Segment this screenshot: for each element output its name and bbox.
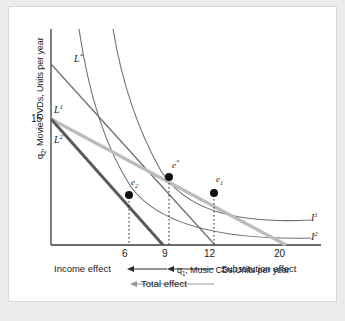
budget-line-lstar-path (51, 64, 215, 245)
point-e2-marker (125, 191, 133, 199)
lstar-exp: * (80, 52, 84, 60)
e2-sub: 2 (135, 182, 138, 189)
point-e1-label: e1 (216, 175, 223, 186)
point-e-star-marker (165, 173, 173, 181)
e1-sub: 1 (220, 179, 223, 186)
total-effect-label: Total effect (141, 279, 187, 289)
point-e2-label: e2 (131, 178, 138, 189)
y-axis-title-sub: 2 (40, 151, 47, 154)
figure-plate: q2, Movie DVDs, Units per year q1, Music… (8, 6, 337, 302)
y-axis-title: q2, Movie DVDs, Units per year (36, 37, 47, 159)
budget-line-l2-path (51, 119, 163, 245)
l2-exp: 2 (60, 133, 64, 141)
i2-exp: 2 (314, 230, 318, 238)
x-tick-label-12: 12 (204, 249, 215, 259)
l1-exp: 1 (60, 103, 64, 111)
indifference-curve-i1-label: I1 (311, 212, 318, 223)
y-axis-title-rest: , Movie DVDs, Units per year (35, 37, 45, 150)
i1-exp: 1 (314, 211, 318, 219)
point-e1-marker (210, 189, 218, 197)
y-tick-label-15: 15 (31, 114, 42, 124)
x-tick-label-20: 20 (274, 249, 285, 259)
e-star-sup: * (176, 158, 179, 165)
x-tick-label-9: 9 (162, 249, 168, 259)
point-e-star-label: e* (172, 159, 179, 170)
budget-line-l2-label: L2 (54, 134, 63, 145)
budget-line-l1-path (51, 119, 286, 245)
figure-root: q2, Movie DVDs, Units per year q1, Music… (0, 0, 345, 321)
chart-canvas (9, 7, 337, 302)
budget-line-lstar-label: L* (74, 53, 83, 64)
income-effect-arrow (127, 266, 167, 272)
x-tick-label-6: 6 (122, 249, 128, 259)
budget-line-l1-label: L1 (54, 104, 63, 115)
y-axis-title-q: q (35, 154, 45, 159)
income-effect-label: Income effect (54, 264, 111, 274)
substitution-effect-label: Substitution effect (221, 264, 296, 274)
indifference-curve-i2-label: I2 (311, 231, 318, 242)
